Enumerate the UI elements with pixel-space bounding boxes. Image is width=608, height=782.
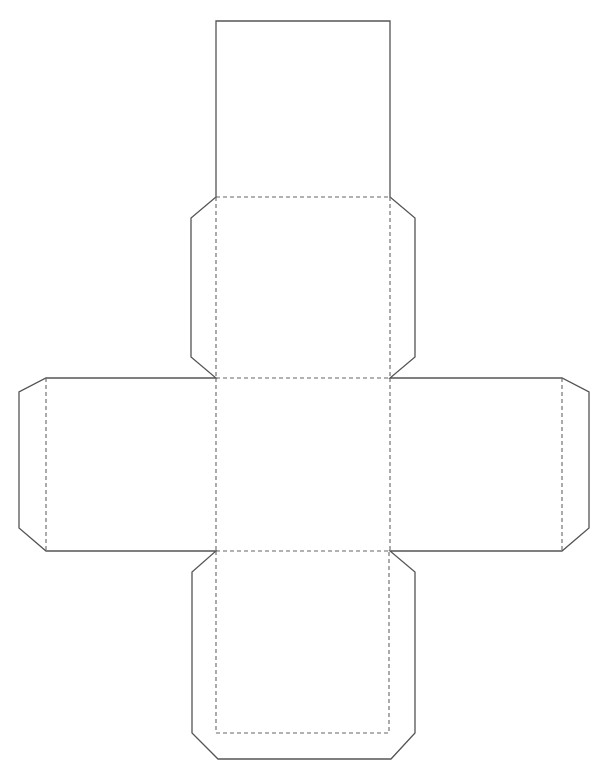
fold-line-bottom-face-box — [216, 551, 389, 733]
cut-outline — [19, 21, 589, 759]
cube-net-diagram — [0, 0, 608, 782]
